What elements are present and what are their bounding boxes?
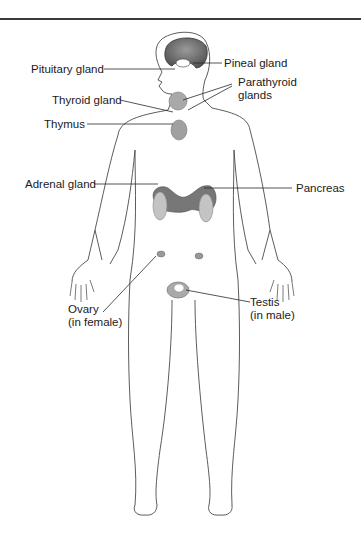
label-ovary-1: Ovary <box>68 303 99 316</box>
label-testis-1: Testis <box>250 296 279 309</box>
label-parathyroid-1: Parathyroid <box>238 76 297 89</box>
label-thymus: Thymus <box>44 118 85 131</box>
thyroid-shape <box>169 92 187 110</box>
right-kidney <box>199 194 213 222</box>
thymus-shape <box>171 120 187 140</box>
glands <box>153 92 216 298</box>
left-kidney <box>153 192 167 220</box>
label-thyroid: Thyroid gland <box>52 94 122 107</box>
label-ovary-2: (in female) <box>68 316 122 329</box>
label-pituitary: Pituitary gland <box>31 63 104 76</box>
label-pancreas: Pancreas <box>296 182 345 195</box>
ovary-left <box>157 251 165 257</box>
label-testis-2: (in male) <box>250 309 295 322</box>
label-pineal: Pineal gland <box>224 57 287 70</box>
label-parathyroid-2: glands <box>238 89 272 102</box>
label-adrenal: Adrenal gland <box>25 178 96 191</box>
ovary-right <box>195 253 203 259</box>
endocrine-figure <box>0 0 361 538</box>
